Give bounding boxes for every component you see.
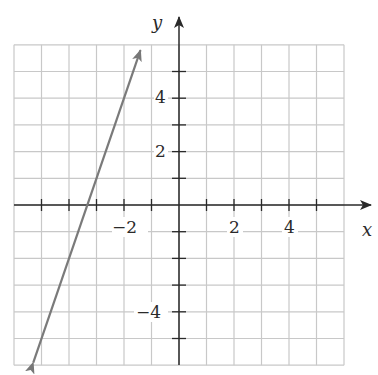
y-tick-label-2: 2 bbox=[155, 141, 166, 161]
x-tick-label-4: 4 bbox=[284, 217, 295, 237]
x-tick-label-2: 2 bbox=[229, 217, 240, 237]
y-tick-label-4: 4 bbox=[155, 87, 166, 107]
y-tick-label-neg4: −4 bbox=[136, 302, 161, 322]
y-axis-label: y bbox=[151, 12, 163, 33]
coordinate-plane: x y −2 2 4 4 2 −4 bbox=[0, 0, 378, 375]
x-tick-label-neg2: −2 bbox=[112, 217, 137, 237]
x-axis-label: x bbox=[362, 219, 372, 240]
